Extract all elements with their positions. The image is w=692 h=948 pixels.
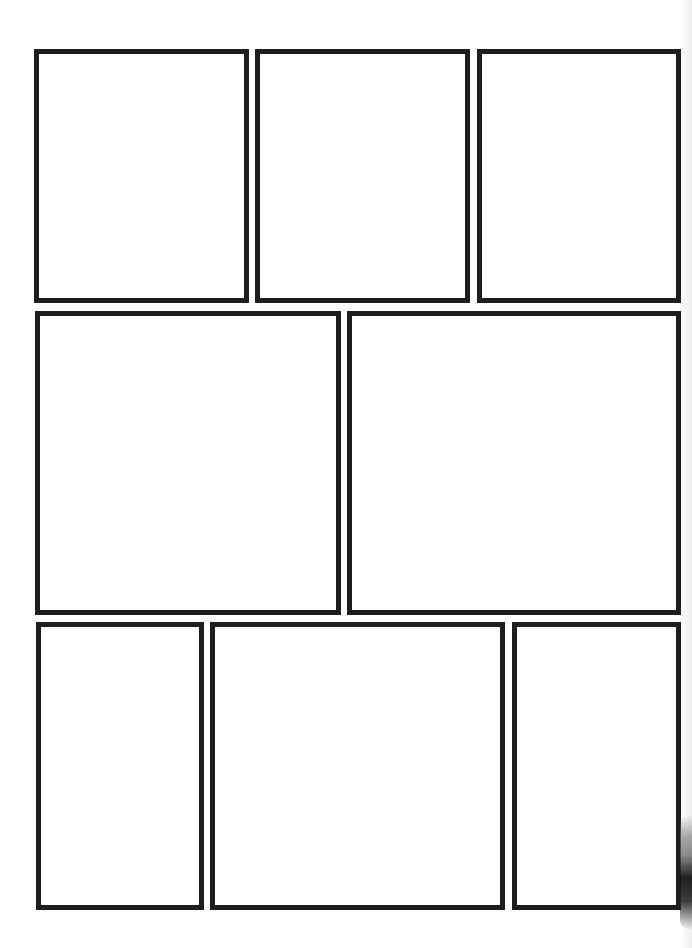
comic-page — [0, 0, 692, 948]
panel-row3-middle — [210, 622, 505, 910]
panel-row1-left — [34, 49, 249, 303]
page-edge-shade — [681, 0, 692, 948]
scan-shadow — [680, 815, 692, 930]
panel-row2-right — [347, 311, 681, 615]
panel-row1-right — [477, 49, 681, 303]
panel-row3-left — [36, 622, 204, 910]
panel-row1-middle — [255, 49, 470, 303]
panel-row2-left — [35, 311, 341, 615]
panel-row3-right — [512, 622, 681, 910]
